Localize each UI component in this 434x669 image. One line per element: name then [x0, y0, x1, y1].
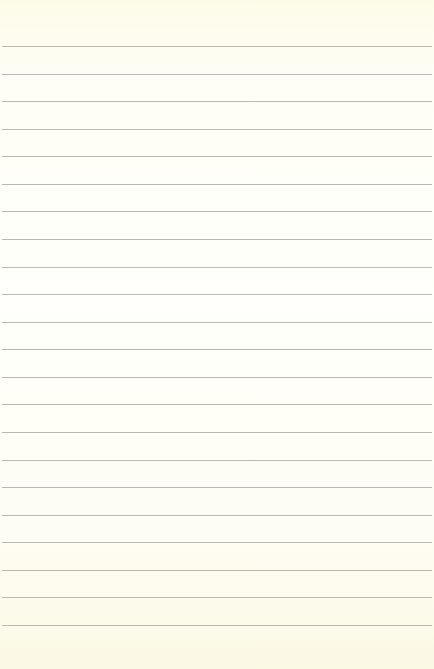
ruled-line — [2, 74, 432, 75]
ruled-line — [2, 487, 432, 488]
ruled-line — [2, 101, 432, 102]
ruled-line — [2, 156, 432, 157]
lined-paper — [0, 0, 434, 669]
ruled-line — [2, 129, 432, 130]
ruled-line — [2, 432, 432, 433]
ruled-line — [2, 184, 432, 185]
ruled-line — [2, 294, 432, 295]
ruled-line — [2, 515, 432, 516]
ruled-line — [2, 597, 432, 598]
ruled-line — [2, 625, 432, 626]
ruled-line — [2, 404, 432, 405]
ruled-line — [2, 211, 432, 212]
ruled-line — [2, 46, 432, 47]
ruled-line — [2, 570, 432, 571]
ruled-line — [2, 377, 432, 378]
ruled-line — [2, 460, 432, 461]
ruled-line — [2, 239, 432, 240]
ruled-line — [2, 349, 432, 350]
ruled-line — [2, 322, 432, 323]
ruled-line — [2, 542, 432, 543]
ruled-line — [2, 267, 432, 268]
